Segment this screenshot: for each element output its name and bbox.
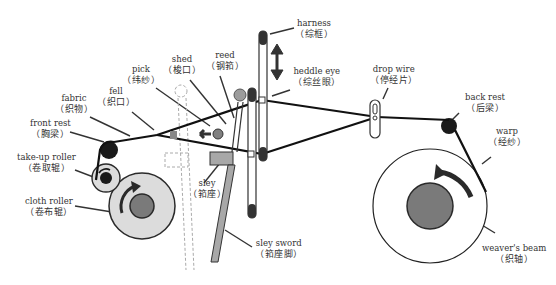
label-shed: shed （梭口） xyxy=(163,54,201,76)
label-warp: warp （经纱） xyxy=(488,126,526,148)
reed xyxy=(232,89,246,152)
label-sley: sley （筘座） xyxy=(188,178,226,200)
shuttle-direction-arrow-icon xyxy=(200,130,211,138)
label-back-rest: back rest （后梁） xyxy=(465,92,505,114)
drop-wire xyxy=(370,100,380,138)
label-pick: pick （纬纱） xyxy=(122,64,160,86)
sley xyxy=(210,152,235,262)
label-sley-sword: sley sword （筘座脚） xyxy=(255,238,303,260)
shuttle xyxy=(213,129,223,139)
front-rest xyxy=(100,141,118,159)
label-drop-wire: drop wire （停经片） xyxy=(370,64,418,86)
label-reed: reed （钢筘） xyxy=(206,50,244,72)
label-weavers-beam: weaver's beam （织轴） xyxy=(482,243,546,265)
up-down-arrow-icon xyxy=(271,44,283,80)
weavers-beam xyxy=(373,149,487,263)
label-fell: fell （织口） xyxy=(97,86,135,108)
label-harness: harness （综框） xyxy=(295,18,333,40)
pick-weft xyxy=(170,131,177,139)
label-take-up-roller: take-up roller （卷取辊） xyxy=(17,152,76,174)
label-cloth-roller: cloth roller （卷布辊） xyxy=(25,196,73,218)
label-fabric: fabric （织物） xyxy=(55,93,93,115)
harness-frames xyxy=(248,31,267,218)
label-heddle-eye: heddle eye （综丝眼） xyxy=(293,66,341,88)
label-front-rest: front rest （胸梁） xyxy=(30,118,71,140)
